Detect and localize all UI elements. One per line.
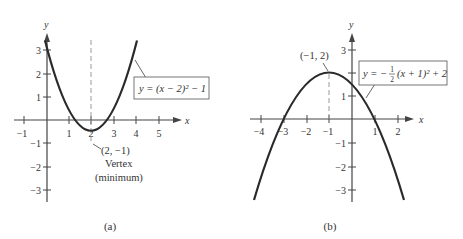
y-axis-arrow-icon <box>349 33 355 42</box>
vertex-label: (2, −1) <box>101 145 130 157</box>
y-tick-label: 3 <box>341 45 346 56</box>
x-tick-label: 5 <box>157 128 162 139</box>
equation-frac-numerator: 1 <box>390 65 394 74</box>
x-axis-label: x <box>418 114 424 125</box>
y-tick-label: −1 <box>335 138 346 149</box>
label-leader-line <box>366 84 375 98</box>
x-tick-label: 1 <box>373 126 378 137</box>
y-tick-label: −3 <box>30 185 41 196</box>
x-tick-label: 1 <box>67 128 72 139</box>
panel-caption-a: (a) <box>104 220 117 233</box>
x-tick-label: −1 <box>323 126 334 137</box>
equation-label: y = (x − 2)² − 1 <box>138 83 206 95</box>
y-axis-label: y <box>348 19 354 30</box>
y-tick-label: −2 <box>335 162 346 173</box>
y-tick-label: −2 <box>30 162 41 173</box>
figure: x y −1 1 2 3 4 5 3 <box>0 0 463 239</box>
y-axis-label: y <box>43 19 49 30</box>
equation-prefix: y = − <box>362 68 387 79</box>
x-axis-label: x <box>184 115 190 126</box>
vertex-label: (−1, 2) <box>300 50 329 62</box>
x-tick-label: 3 <box>112 128 117 139</box>
x-tick-label: 4 <box>134 128 139 139</box>
x-axis-arrow-icon <box>405 116 414 122</box>
y-tick-label: −3 <box>335 185 346 196</box>
vertex-note-minimum: (minimum) <box>95 172 143 184</box>
y-tick-label: 1 <box>341 91 346 102</box>
x-tick-label: −2 <box>301 126 312 137</box>
panel-b: x y −4 −3 −2 −1 1 2 3 1 <box>250 19 448 233</box>
vertex-leader-line <box>93 144 101 149</box>
y-tick-labels: 3 1 −1 −2 −3 <box>335 45 346 196</box>
panel-a: x y −1 1 2 3 4 5 3 <box>14 19 209 233</box>
x-axis-arrow-icon <box>173 117 182 123</box>
y-tick-label: 3 <box>36 45 41 56</box>
y-tick-label: 2 <box>36 69 41 80</box>
panel-caption-b: (b) <box>324 220 337 233</box>
y-tick-label: −1 <box>30 138 41 149</box>
label-leader-line <box>135 60 146 78</box>
x-tick-label: −4 <box>254 126 265 137</box>
vertex-leader-line <box>323 63 328 71</box>
x-tick-label: −1 <box>17 128 28 139</box>
x-tick-label: 2 <box>396 126 401 137</box>
equation-suffix: (x + 1)² + 2 <box>397 68 448 80</box>
vertex-note: Vertex <box>105 158 133 169</box>
equation-frac-denominator: 2 <box>390 75 394 84</box>
y-tick-label: 1 <box>36 92 41 103</box>
